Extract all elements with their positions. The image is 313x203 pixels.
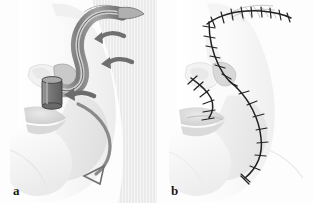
panel-a-label: a <box>13 184 20 197</box>
panel-b-label: b <box>171 184 178 197</box>
panel-b-illustration <box>157 0 313 203</box>
nasal-stent <box>42 77 62 110</box>
panel-a: a <box>0 0 157 203</box>
panel-b: b <box>157 0 313 203</box>
figure-root: a <box>0 0 313 203</box>
panel-a-illustration <box>0 0 157 203</box>
